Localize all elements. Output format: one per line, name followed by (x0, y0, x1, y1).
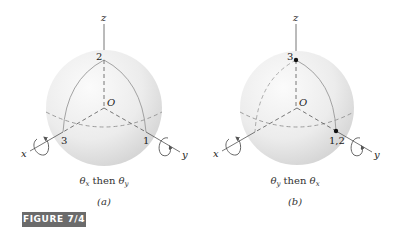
origin-label: O (107, 97, 115, 108)
panel-b: z x y O 3 1,2 θy then θx (b) (213, 12, 380, 207)
point-3-label: 3 (61, 135, 67, 146)
x-rotation-arrow-icon (34, 138, 49, 155)
panel-a: z x y O 2 3 1 θx then θy (a) (21, 12, 188, 207)
y-label: y (181, 149, 188, 160)
point-3-dot (294, 58, 298, 62)
rotation-diagram: z x y O 2 3 1 θx then θy (a) z x y O 3 (0, 0, 402, 237)
x-label: x (213, 148, 219, 159)
point-2-label: 2 (96, 51, 102, 62)
sublabel-b: (b) (288, 196, 302, 207)
y-rotation-arrow-icon (159, 138, 170, 156)
point-12-dot (334, 129, 338, 133)
origin-label: O (299, 97, 307, 108)
z-label: z (100, 12, 107, 23)
point-12-label: 1,2 (329, 135, 345, 146)
figure-label: FIGURE 7/4 (22, 212, 86, 227)
x-label: x (21, 148, 27, 159)
point-3-label: 3 (287, 51, 293, 62)
point-1-label: 1 (143, 135, 149, 146)
y-rotation-arrow-icon (351, 138, 362, 156)
sublabel-a: (a) (97, 196, 111, 207)
caption-b: θy then θx (270, 175, 319, 188)
x-rotation-arrow-icon (226, 138, 241, 155)
z-label: z (292, 12, 299, 23)
caption-a: θx then θy (79, 175, 129, 188)
y-axis (146, 132, 180, 152)
y-label: y (373, 149, 380, 160)
